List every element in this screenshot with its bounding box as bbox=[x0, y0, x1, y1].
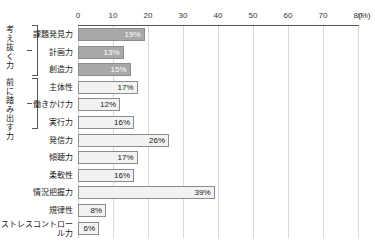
bar-category-label: 傾聴力 bbox=[0, 150, 73, 166]
x-axis-tick-label: 0 bbox=[76, 11, 80, 20]
chart-bar-row: 実行力16% bbox=[0, 115, 375, 131]
bar: 12% bbox=[78, 98, 120, 111]
chart-bar-row: 働きかけ力12% bbox=[0, 97, 375, 113]
x-axis-tick-label: 50 bbox=[249, 11, 258, 20]
chart-bar-row: ストレスコントロール力6% bbox=[0, 221, 375, 237]
chart-bar-row: 計画力13% bbox=[0, 45, 375, 61]
x-axis-tick-label: 30 bbox=[179, 11, 188, 20]
chart-bar-row: 情況把握力39% bbox=[0, 185, 375, 201]
x-axis-tick-label: 40 bbox=[214, 11, 223, 20]
chart-bar-row: 主体性17% bbox=[0, 80, 375, 96]
bar-category-label: 実行力 bbox=[0, 115, 73, 131]
bar-category-label: 主体性 bbox=[0, 80, 73, 96]
bar-category-label: 働きかけ力 bbox=[0, 97, 73, 113]
bar-category-label: 発信力 bbox=[0, 133, 73, 149]
bar: 16% bbox=[78, 116, 134, 129]
bar-value-label: 6% bbox=[83, 223, 95, 234]
bar: 26% bbox=[78, 134, 169, 147]
bar-category-label: 規律性 bbox=[0, 203, 73, 219]
bar: 16% bbox=[78, 169, 134, 182]
chart-bar-row: 規律性8% bbox=[0, 203, 375, 219]
chart-bar-row: 課題発見力19% bbox=[0, 27, 375, 43]
bar-value-label: 19% bbox=[124, 29, 140, 40]
bar-value-label: 12% bbox=[100, 99, 116, 110]
bar-value-label: 26% bbox=[149, 135, 165, 146]
x-axis-unit-label: (%) bbox=[358, 11, 370, 20]
bar-category-label: 創造力 bbox=[0, 62, 73, 78]
chart-bar-row: 傾聴力17% bbox=[0, 150, 375, 166]
bar: 8% bbox=[78, 204, 106, 217]
bar: 17% bbox=[78, 151, 138, 164]
bar: 13% bbox=[78, 46, 124, 59]
chart-bar-row: 発信力26% bbox=[0, 133, 375, 149]
bar: 19% bbox=[78, 28, 145, 41]
bar: 17% bbox=[78, 81, 138, 94]
bar-value-label: 8% bbox=[90, 205, 102, 216]
x-axis-tick-label: 20 bbox=[144, 11, 153, 20]
bar: 39% bbox=[78, 186, 215, 199]
bar-category-label: 情況把握力 bbox=[0, 185, 73, 201]
chart-bar-row: 柔軟性16% bbox=[0, 168, 375, 184]
bar-value-label: 16% bbox=[114, 117, 130, 128]
bar-chart: 01020304050607080(%) 考え抜く力前に踏み出す力 課題発見力1… bbox=[0, 0, 375, 251]
bar-value-label: 15% bbox=[110, 64, 126, 75]
bar-value-label: 16% bbox=[114, 170, 130, 181]
bar: 6% bbox=[78, 222, 99, 235]
bar-category-label: 柔軟性 bbox=[0, 168, 73, 184]
bar-value-label: 17% bbox=[117, 152, 133, 163]
bar-value-label: 13% bbox=[103, 47, 119, 58]
bar-value-label: 17% bbox=[117, 82, 133, 93]
bar-category-label: ストレスコントロール力 bbox=[0, 220, 73, 238]
x-axis-tick-label: 10 bbox=[109, 11, 118, 20]
bar-category-label: 計画力 bbox=[0, 45, 73, 61]
bar: 15% bbox=[78, 63, 131, 76]
x-axis-tick-label: 70 bbox=[319, 11, 328, 20]
bar-category-label: 課題発見力 bbox=[0, 27, 73, 43]
chart-bar-row: 創造力15% bbox=[0, 62, 375, 78]
bar-value-label: 39% bbox=[194, 187, 210, 198]
x-axis-tick-label: 60 bbox=[284, 11, 293, 20]
